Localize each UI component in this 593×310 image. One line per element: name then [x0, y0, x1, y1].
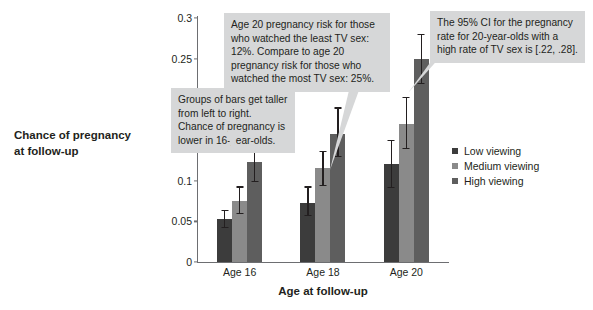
bar[interactable]: [414, 59, 429, 262]
error-bar: [322, 151, 323, 185]
annotation-callout-middle: Age 20 pregnancy risk for those who watc…: [224, 13, 390, 92]
legend-item[interactable]: High viewing: [452, 173, 539, 188]
annotation-callout-left: Groups of bars get taller from left to r…: [171, 88, 295, 153]
x-axis-title: Age at follow-up: [198, 285, 448, 297]
legend-item[interactable]: Medium viewing: [452, 158, 539, 173]
legend-swatch-icon: [452, 148, 458, 154]
error-bar: [224, 210, 225, 227]
error-bar-cap-lower: [388, 187, 395, 188]
bar-chart-figure: Chance of pregnancy at follow-up Age at …: [0, 0, 593, 310]
legend-item-label: Medium viewing: [464, 160, 539, 172]
legend-item[interactable]: Low viewing: [452, 143, 539, 158]
error-bar: [239, 186, 240, 213]
error-bar: [391, 140, 392, 187]
error-bar-cap-lower: [319, 185, 326, 186]
error-bar: [421, 34, 422, 83]
error-bar-cap-upper: [403, 97, 410, 98]
error-bar-cap-lower: [403, 148, 410, 149]
error-bar-cap-upper: [388, 140, 395, 141]
error-bar-cap-lower: [304, 215, 311, 216]
error-bar: [307, 186, 308, 214]
chart-legend: Low viewingMedium viewingHigh viewing: [452, 143, 539, 188]
x-axis-tick-label: Age 18: [281, 266, 364, 278]
error-bar-cap-lower: [334, 156, 341, 157]
y-axis-title-line2: at follow-up: [14, 144, 164, 160]
error-bar-cap-upper: [236, 186, 243, 187]
error-bar-cap-upper: [334, 107, 341, 108]
legend-item-label: Low viewing: [464, 145, 521, 157]
x-axis-tick-label: Age 20: [365, 266, 448, 278]
y-axis-title: Chance of pregnancy at follow-up: [14, 128, 164, 159]
error-bar-cap-lower: [236, 213, 243, 214]
legend-swatch-icon: [452, 163, 458, 169]
error-bar-cap-lower: [251, 181, 258, 182]
error-bar-cap-lower: [221, 227, 228, 228]
legend-item-label: High viewing: [464, 175, 524, 187]
error-bar-cap-upper: [319, 151, 326, 152]
error-bar: [337, 107, 338, 156]
x-axis-tick-label: Age 16: [198, 266, 281, 278]
error-bar-cap-upper: [418, 34, 425, 35]
error-bar-cap-upper: [304, 186, 311, 187]
legend-swatch-icon: [452, 178, 458, 184]
x-axis-line: [197, 262, 449, 263]
annotation-callout-right: The 95% CI for the pregnancy rate for 20…: [430, 11, 585, 63]
error-bar-cap-lower: [418, 83, 425, 84]
error-bar: [406, 97, 407, 148]
y-axis-title-line1: Chance of pregnancy: [14, 128, 164, 144]
error-bar-cap-upper: [221, 210, 228, 211]
